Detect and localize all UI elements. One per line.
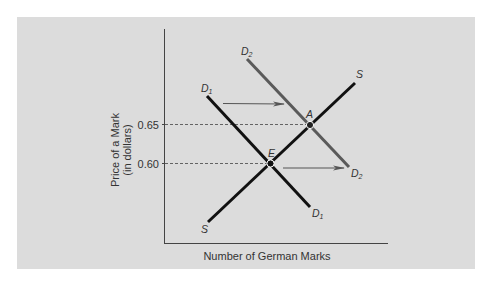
y-axis-title: Price of a Mark: [109, 113, 121, 187]
point-a-label: A: [305, 108, 313, 120]
tick-label-060: 0.60: [138, 158, 159, 170]
x-axis-title: Number of German Marks: [203, 250, 331, 262]
shift-arrow-upper: [223, 104, 284, 105]
d2-top-label: D2: [241, 45, 253, 58]
d1-top-label: D1: [201, 82, 213, 95]
s-bottom-label: S: [201, 223, 208, 235]
y-axis-subtitle: (in dollars): [121, 124, 133, 175]
point-e-marker: [267, 160, 274, 167]
d2-curve: [247, 59, 349, 167]
d1-curve: [207, 96, 310, 207]
tick-label-065: 0.65: [138, 119, 159, 131]
d2-bottom-label: D2: [351, 167, 363, 180]
point-a-marker: [306, 121, 313, 128]
s-top-label: S: [356, 68, 363, 80]
point-e-label: E: [268, 147, 276, 159]
d1-bottom-label: D1: [312, 207, 324, 220]
supply-demand-chart: 0.65 0.60 D2 D1 S A E D2 D1 S Price of a…: [0, 0, 491, 285]
